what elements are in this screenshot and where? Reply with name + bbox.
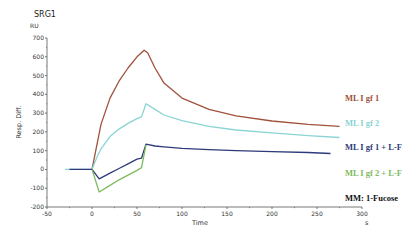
legend-entry-3: ML I gf 1 + L-F xyxy=(345,142,402,152)
x-axis-label: Time xyxy=(191,219,208,227)
annotation: MM: 1-Fucose xyxy=(345,193,398,203)
y-tick-label: 300 xyxy=(33,109,45,116)
chart: SRG1 RU Resp. Diff. Time s -200-10001002… xyxy=(0,0,419,240)
y-tick-label: 200 xyxy=(33,128,45,135)
x-unit-label: s xyxy=(365,219,369,227)
y-tick-label: 100 xyxy=(33,147,45,154)
x-tick-label: 200 xyxy=(266,210,278,217)
y-unit-label: RU xyxy=(30,22,39,29)
y-tick-label: 700 xyxy=(33,34,45,41)
legend-entry-1: ML I gf 1 xyxy=(345,93,379,103)
y-tick-label: 500 xyxy=(33,72,45,79)
x-tick-label: 150 xyxy=(221,210,233,217)
x-tick-label: 50 xyxy=(133,210,141,217)
x-tick-label: 0 xyxy=(90,210,94,217)
y-tick-label: 400 xyxy=(33,90,45,97)
y-tick-label: -200 xyxy=(30,203,44,210)
chart-title: SRG1 xyxy=(34,10,56,19)
series-line-1 xyxy=(92,50,340,169)
y-tick-label: 600 xyxy=(33,53,45,60)
series-line-3 xyxy=(70,144,331,179)
x-tick-label: 300 xyxy=(356,210,368,217)
legend-entry-4: ML I gf 2 + L-F xyxy=(345,168,402,178)
series-line-2 xyxy=(65,104,340,170)
x-tick-label: 100 xyxy=(176,210,188,217)
y-tick-label: -100 xyxy=(30,184,44,191)
x-tick-label: -50 xyxy=(42,210,52,217)
x-tick-label: 250 xyxy=(311,210,323,217)
y-tick-label: 0 xyxy=(40,165,44,172)
legend-entry-2: ML I gf 2 xyxy=(345,118,379,128)
y-axis-label: Resp. Diff. xyxy=(15,105,23,138)
